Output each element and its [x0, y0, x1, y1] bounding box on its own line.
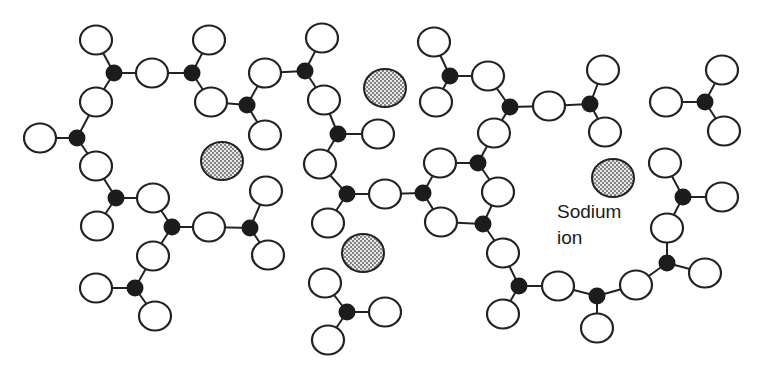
oxygen-atom	[649, 149, 681, 178]
silicon-atom	[502, 99, 519, 116]
oxygen-atom	[482, 178, 514, 207]
oxygen-atom	[306, 24, 338, 53]
silicon-atom	[475, 216, 492, 233]
oxygen-atom	[304, 150, 336, 179]
oxygen-atom	[80, 88, 112, 117]
oxygen-atom	[309, 269, 341, 298]
silicate-network-diagram	[0, 0, 764, 377]
oxygen-atom	[420, 88, 452, 117]
oxygen-atom	[136, 59, 168, 88]
sodium-ion	[592, 159, 634, 197]
oxygen-atom	[137, 242, 169, 271]
silicon-atom	[697, 94, 714, 111]
oxygen-atom	[533, 92, 565, 121]
silicon-atom	[415, 185, 432, 202]
label-line-2: ion	[557, 225, 621, 251]
sodium-ion	[364, 69, 406, 107]
silicon-atom	[184, 65, 201, 82]
silicon-atom	[106, 65, 123, 82]
silicon-atom	[69, 130, 86, 147]
oxygen-atom	[308, 86, 340, 115]
silicon-atom	[242, 220, 259, 237]
silicon-atom	[108, 190, 125, 207]
silicon-atom	[339, 304, 356, 321]
oxygen-atom	[249, 121, 281, 150]
sodium-ion	[201, 142, 243, 180]
oxygen-atom	[312, 326, 344, 355]
silicon-atom	[339, 186, 356, 203]
silicon-atom	[127, 280, 144, 297]
label-line-1: Sodium	[557, 199, 621, 225]
oxygen-atom	[424, 149, 456, 178]
oxygen-atom	[362, 120, 394, 149]
oxygen-atom	[80, 152, 112, 181]
silicon-atom	[239, 97, 256, 114]
oxygen-atom	[620, 271, 652, 300]
silicon-atom	[675, 189, 692, 206]
oxygen-atom	[478, 119, 510, 148]
oxygen-atom	[472, 62, 504, 91]
oxygen-atom	[193, 213, 225, 242]
oxygen-atom	[487, 300, 519, 329]
silicon-atom	[589, 288, 606, 305]
oxygen-atom	[581, 314, 613, 343]
oxygen-atom	[80, 274, 112, 303]
oxygen-atom	[369, 180, 401, 209]
oxygen-atom	[81, 212, 113, 241]
oxygen-atom	[369, 298, 401, 327]
oxygen-atom	[249, 59, 281, 88]
oxygen-atom	[651, 214, 683, 243]
oxygen-atom	[312, 209, 344, 238]
oxygen-atom	[706, 56, 738, 85]
silicon-atom	[442, 68, 459, 85]
oxygen-atom	[137, 184, 169, 213]
oxygen-atom	[80, 26, 112, 55]
silicon-atom	[582, 96, 599, 113]
oxygen-atom	[193, 26, 225, 55]
oxygen-atom	[689, 259, 721, 288]
oxygen-atom	[587, 56, 619, 85]
silicon-atom	[297, 63, 314, 80]
oxygen-atom	[24, 124, 56, 153]
oxygen-atom	[139, 302, 171, 331]
oxygen-atom	[418, 28, 450, 57]
oxygen-atom	[542, 272, 574, 301]
silicon-atom	[659, 255, 676, 272]
oxygen-atom	[708, 117, 740, 146]
oxygen-atom	[425, 208, 457, 237]
silicon-atom	[330, 126, 347, 143]
silicon-atom	[511, 278, 528, 295]
silicon-atom	[470, 155, 487, 172]
oxygen-atom	[195, 88, 227, 117]
silicon-atom	[164, 219, 181, 236]
oxygen-atom	[650, 88, 682, 117]
sodium-ion-label: Sodium ion	[557, 199, 621, 251]
oxygen-atom	[250, 177, 282, 206]
oxygen-atom	[589, 118, 621, 147]
oxygen-atom	[706, 183, 738, 212]
sodium-ion	[342, 234, 384, 272]
oxygen-atom	[487, 239, 519, 268]
oxygen-atom	[252, 241, 284, 270]
